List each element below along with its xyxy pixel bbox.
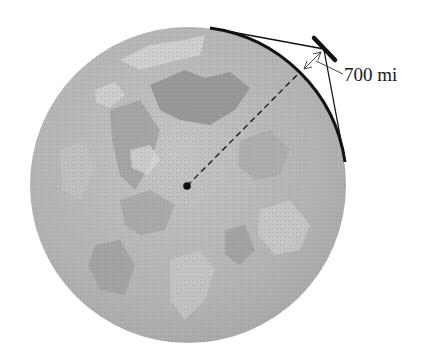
altitude-label: 700 mi (344, 64, 397, 85)
diagram-canvas: 700 mi (0, 0, 431, 353)
earth-satellite-diagram: 700 mi (0, 0, 431, 353)
satellite (314, 38, 335, 60)
altitude-arrow (304, 52, 343, 74)
earth-center-point (183, 182, 191, 190)
